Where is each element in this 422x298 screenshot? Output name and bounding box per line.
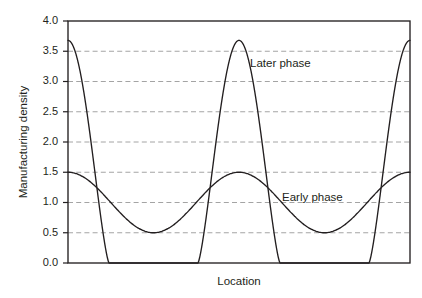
early-phase-label: Early phase [282,191,343,203]
y-tick-label-2.5: 2.5 [43,105,58,117]
y-tick-label-3.0: 3.0 [43,74,58,86]
y-tick-label-0.5: 0.5 [43,226,58,238]
y-tick-label-0.0: 0.0 [43,256,58,268]
later-phase-label: Later phase [250,57,311,69]
chart-figure: 4.0 3.5 3.0 2.5 2.0 1.5 1.0 0.5 0.0 Late… [0,0,422,298]
y-axis-tick-labels: 4.0 3.5 3.0 2.5 2.0 1.5 1.0 0.5 0.0 [43,14,58,268]
y-axis-title: Manufacturing density [17,86,29,199]
x-axis-title: Location [217,275,260,287]
y-tick-label-2.0: 2.0 [43,135,58,147]
later-phase-curve [68,40,410,263]
manufacturing-density-chart: 4.0 3.5 3.0 2.5 2.0 1.5 1.0 0.5 0.0 Late… [0,0,422,298]
gridlines [68,51,410,233]
y-tick-label-1.0: 1.0 [43,195,58,207]
y-tick-label-4.0: 4.0 [43,14,58,26]
y-axis-tickmarks [63,21,68,263]
y-tick-label-1.5: 1.5 [43,165,58,177]
y-tick-label-3.5: 3.5 [43,44,58,56]
